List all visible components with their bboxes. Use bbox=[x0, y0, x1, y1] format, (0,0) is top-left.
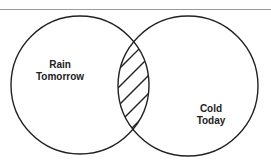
set-b-label-line-1: Cold bbox=[186, 103, 236, 115]
set-a-circle bbox=[11, 16, 149, 154]
set-a-label-line-2: Tomorrow bbox=[30, 71, 90, 83]
set-a-label-line-1: Rain bbox=[30, 59, 90, 71]
set-a-label: Rain Tomorrow bbox=[30, 59, 90, 83]
set-b-label: Cold Today bbox=[186, 103, 236, 127]
set-b-circle bbox=[118, 16, 258, 156]
set-b-label-line-2: Today bbox=[186, 115, 236, 127]
